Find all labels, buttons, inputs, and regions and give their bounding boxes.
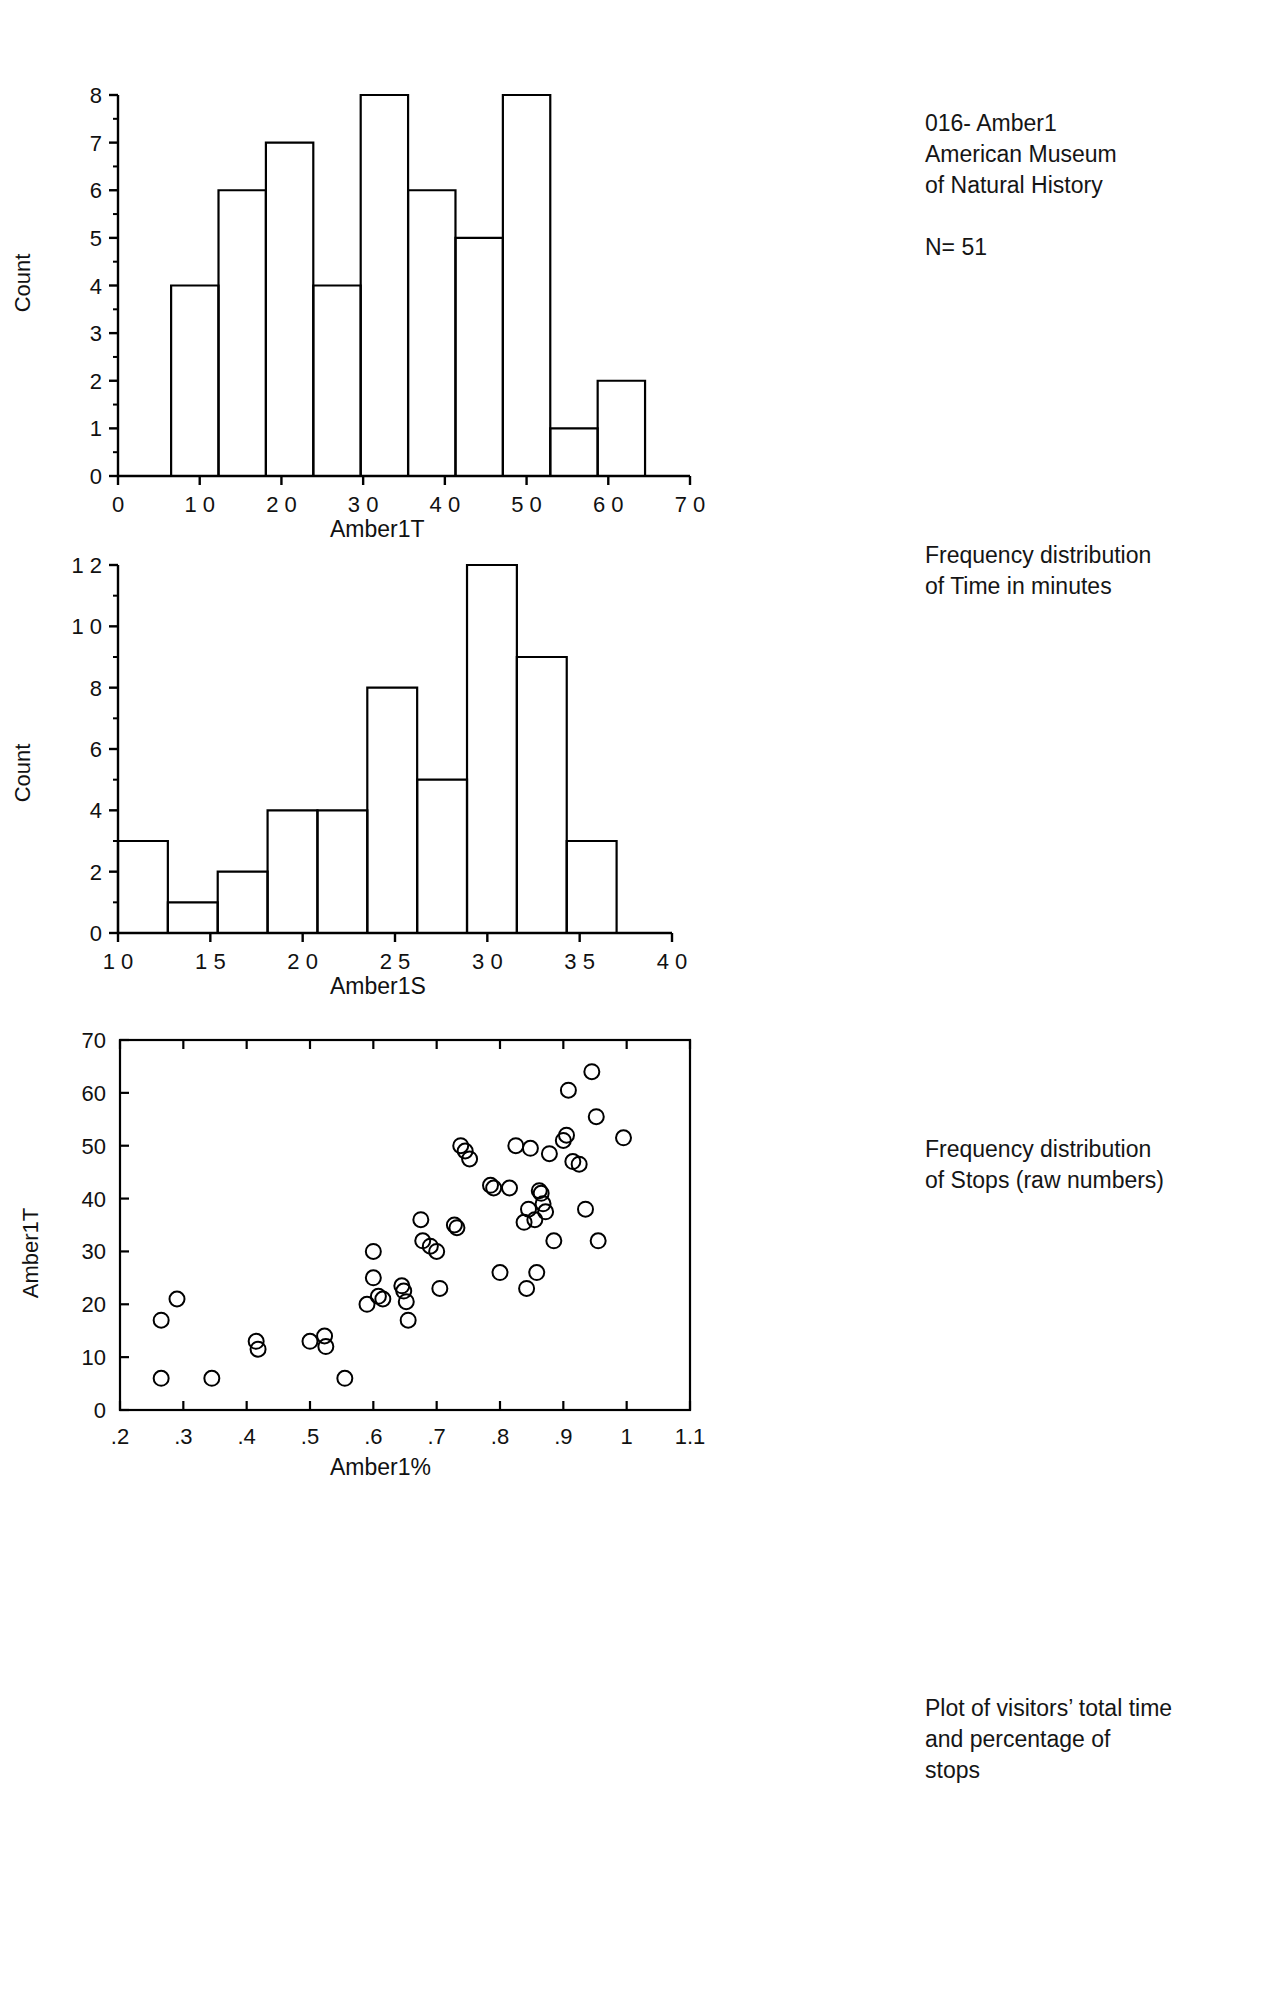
n-value: N= 51: [925, 232, 987, 263]
scatter-amber1-canvas: 010203040506070.2.3.4.5.6.7.8.911.1: [0, 1010, 760, 1490]
x-tick-label: .8: [491, 1424, 509, 1449]
scatter-point: [508, 1138, 523, 1153]
bar-outline: [317, 810, 367, 933]
histogram-bar: [168, 902, 218, 933]
histogram-bar: [361, 95, 408, 476]
scatter-point: [396, 1284, 411, 1299]
scatter-point: [154, 1313, 169, 1328]
header-line-institution: American Museum: [925, 139, 1117, 170]
y-tick-label: 0: [94, 1398, 106, 1423]
histogram-amber1t: 01234567801 02 03 04 05 06 07 0 Count Am…: [0, 0, 760, 560]
y-tick-label: 8: [90, 83, 102, 108]
x-tick-label: 4 0: [657, 949, 688, 974]
x-tick-label: 3 0: [472, 949, 503, 974]
caption-hist-time: Frequency distribution of Time in minute…: [925, 540, 1151, 602]
bar-outline: [467, 565, 517, 933]
scatter-point: [432, 1281, 447, 1296]
scatter-point: [170, 1292, 185, 1307]
bar-outline: [168, 902, 218, 933]
y-tick-label: 4: [90, 274, 102, 299]
x-tick-label: 7 0: [675, 492, 706, 517]
histogram-bar: [517, 657, 567, 933]
scatter-amber1-y-axis-title: Amber1T: [18, 1208, 44, 1298]
histogram-bar: [266, 143, 313, 476]
caption-scatter-line3: stops: [925, 1755, 1172, 1786]
x-tick-label: .6: [364, 1424, 382, 1449]
y-tick-label: 4: [90, 798, 102, 823]
bar-outline: [598, 381, 645, 476]
histogram-bar: [550, 428, 597, 476]
caption-scatter: Plot of visitors’ total time and percent…: [925, 1693, 1172, 1786]
x-tick-label: .9: [554, 1424, 572, 1449]
bar-outline: [313, 286, 360, 477]
x-tick-label: .5: [301, 1424, 319, 1449]
scatter-point: [401, 1313, 416, 1328]
caption-scatter-line2: and percentage of: [925, 1724, 1172, 1755]
y-tick-label: 2: [90, 369, 102, 394]
scatter-point: [366, 1270, 381, 1285]
histogram-bar: [219, 190, 266, 476]
header-line-id: 016- Amber1: [925, 108, 1117, 139]
histogram-bar: [598, 381, 645, 476]
y-tick-label: 8: [90, 676, 102, 701]
scatter-point: [318, 1339, 333, 1354]
x-tick-label: 2 5: [380, 949, 411, 974]
scatter-amber1: 010203040506070.2.3.4.5.6.7.8.911.1 Ambe…: [0, 1010, 760, 1490]
y-tick-label: 60: [82, 1081, 106, 1106]
scatter-point: [366, 1244, 381, 1259]
x-tick-label: 3 5: [564, 949, 595, 974]
histogram-bar: [367, 688, 417, 933]
x-tick-label: 3 0: [348, 492, 379, 517]
sample-size-label: N= 51: [925, 232, 987, 263]
bar-outline: [367, 688, 417, 933]
x-tick-label: 6 0: [593, 492, 624, 517]
x-tick-label: .2: [111, 1424, 129, 1449]
histogram-amber1t-y-axis-title: Count: [10, 254, 36, 313]
caption-hist-stops: Frequency distribution of Stops (raw num…: [925, 1134, 1164, 1196]
bar-outline: [361, 95, 408, 476]
scatter-point: [154, 1371, 169, 1386]
y-tick-label: 50: [82, 1134, 106, 1159]
bar-outline: [118, 841, 168, 933]
scatter-point: [399, 1294, 414, 1309]
scatter-point: [375, 1292, 390, 1307]
figure-page: 016- Amber1 American Museum of Natural H…: [0, 0, 1272, 1989]
caption-hist-time-line2: of Time in minutes: [925, 571, 1151, 602]
y-tick-label: 6: [90, 737, 102, 762]
bar-outline: [567, 841, 617, 933]
histogram-bar: [171, 286, 218, 477]
histogram-bar: [313, 286, 360, 477]
y-tick-label: 1 2: [71, 553, 102, 578]
scatter-point: [589, 1109, 604, 1124]
histogram-bar: [118, 841, 168, 933]
histogram-amber1s-canvas: 024681 01 21 01 52 02 53 03 54 0: [0, 545, 760, 1005]
scatter-point: [529, 1265, 544, 1280]
scatter-point: [303, 1334, 318, 1349]
plot-frame: [120, 1040, 690, 1410]
y-tick-label: 7: [90, 131, 102, 156]
histogram-amber1s: 024681 01 21 01 52 02 53 03 54 0 Count A…: [0, 545, 760, 1005]
caption-hist-stops-line2: of Stops (raw numbers): [925, 1165, 1164, 1196]
x-tick-label: 2 0: [287, 949, 318, 974]
scatter-point: [413, 1212, 428, 1227]
bar-outline: [266, 143, 313, 476]
scatter-point: [542, 1146, 557, 1161]
scatter-point: [591, 1233, 606, 1248]
histogram-bar: [417, 780, 467, 933]
scatter-point: [546, 1233, 561, 1248]
y-tick-label: 30: [82, 1239, 106, 1264]
x-tick-label: 1: [621, 1424, 633, 1449]
bar-outline: [550, 428, 597, 476]
x-tick-label: 1 0: [103, 949, 134, 974]
bar-outline: [503, 95, 550, 476]
histogram-amber1t-canvas: 01234567801 02 03 04 05 06 07 0: [0, 0, 760, 560]
scatter-point: [486, 1181, 501, 1196]
x-tick-label: 5 0: [511, 492, 542, 517]
x-tick-label: 1 5: [195, 949, 226, 974]
x-tick-label: 1.1: [675, 1424, 706, 1449]
scatter-point: [584, 1064, 599, 1079]
histogram-bar: [467, 565, 517, 933]
histogram-bar: [317, 810, 367, 933]
x-tick-label: 0: [112, 492, 124, 517]
histogram-amber1t-x-axis-title: Amber1T: [330, 516, 425, 543]
